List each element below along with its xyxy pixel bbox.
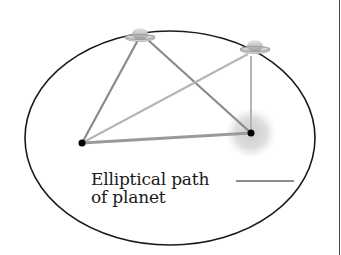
- line-planet1-to-right-focus: [148, 40, 251, 133]
- caption-line-1: Elliptical path: [91, 170, 209, 188]
- caption-line-2: of planet: [91, 188, 209, 206]
- left-focus-dot: [79, 140, 86, 147]
- ellipse-orbit-diagram: [0, 0, 341, 255]
- orbit-caption: Elliptical path of planet: [91, 170, 209, 206]
- right-border-line: [339, 0, 340, 255]
- right-focus-dot: [248, 130, 255, 137]
- planet-icon-1: [125, 28, 155, 42]
- planet-icon-2: [240, 40, 270, 54]
